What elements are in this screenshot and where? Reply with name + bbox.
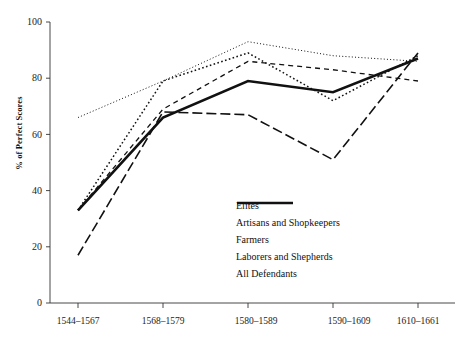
y-tick-80: 80	[8, 72, 42, 83]
legend-label-artisans: Artisans and Shopkeepers	[236, 217, 340, 228]
line-chart-plot	[0, 0, 463, 343]
legend-item-all-defendants: All Defendants	[236, 265, 340, 282]
legend-label-farmers: Farmers	[236, 234, 269, 245]
legend-swatch-all-defendants	[236, 197, 294, 208]
series-line-farmers	[78, 61, 418, 210]
y-tick-40: 40	[8, 185, 42, 196]
x-tick-1544-1567: 1544–1567	[33, 316, 123, 326]
y-tick-0: 0	[8, 297, 42, 308]
chart-figure: % of Perfect Scores 100 80 60 40 20 0 15…	[0, 0, 463, 343]
y-tick-20: 20	[8, 241, 42, 252]
legend-label-laborers: Laborers and Shepherds	[236, 251, 333, 262]
chart-legend: Elites Artisans and Shopkeepers Farmers …	[236, 197, 340, 282]
y-tick-100: 100	[8, 16, 42, 27]
legend-item-laborers: Laborers and Shepherds	[236, 248, 340, 265]
x-tick-1568-1579: 1568–1579	[118, 316, 208, 326]
x-tick-1580-1589: 1580–1589	[211, 316, 301, 326]
legend-item-artisans: Artisans and Shopkeepers	[236, 214, 340, 231]
y-tick-60: 60	[8, 129, 42, 140]
legend-item-farmers: Farmers	[236, 231, 340, 248]
legend-label-all-defendants: All Defendants	[236, 268, 297, 279]
series-line-artisans-and-shopkeepers	[78, 53, 418, 210]
x-tick-1610-1661: 1610–1661	[373, 316, 463, 326]
series-line-all-defendants	[78, 59, 418, 211]
